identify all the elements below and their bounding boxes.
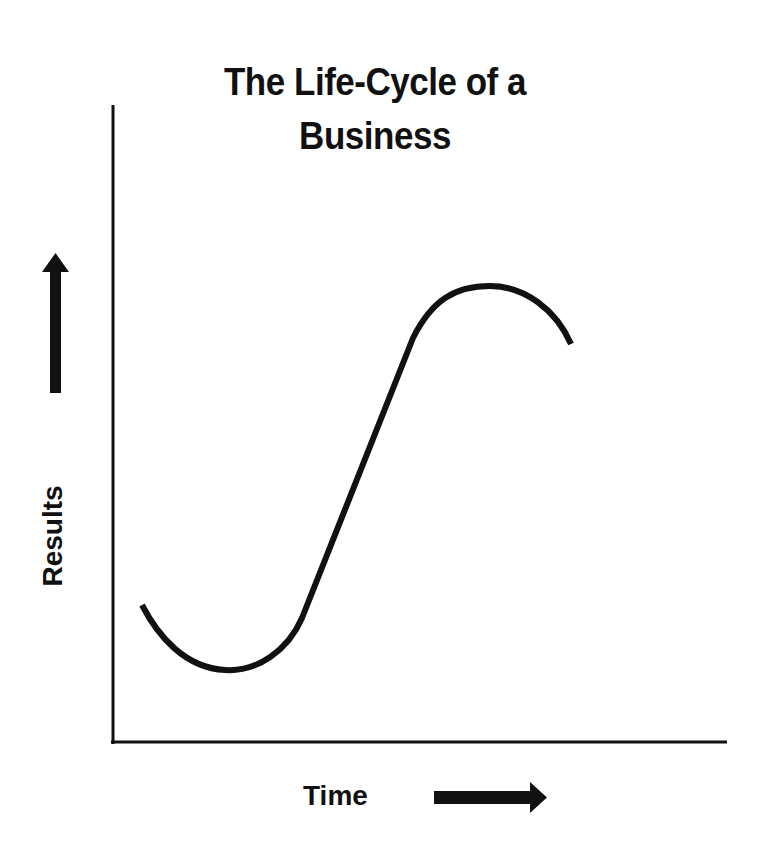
life-cycle-curve [142,286,571,670]
right-arrow-icon [434,782,547,813]
x-axis-label: Time [303,780,368,812]
plot-area [0,0,765,846]
up-arrow-icon [42,253,69,393]
y-axis-label: Results [37,485,69,586]
